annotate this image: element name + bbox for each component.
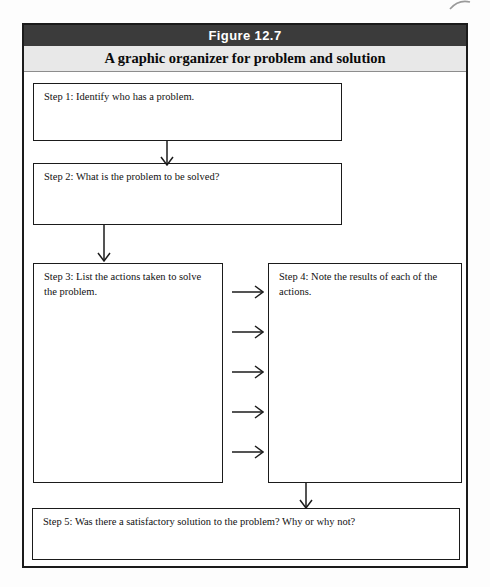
arrow-step4-to-step5-icon [299, 483, 313, 509]
step4-text: Step 4: Note the results of each of the … [279, 270, 439, 299]
step1-box: Step 1: Identify who has a problem. [33, 83, 342, 141]
arrow-step3-to-step4-icon [232, 325, 264, 339]
step4-box: Step 4: Note the results of each of the … [268, 263, 462, 483]
figure-number-bar: Figure 12.7 [24, 25, 466, 46]
step5-box: Step 5: Was there a satisfactory solutio… [32, 508, 460, 560]
figure-title-bar: A graphic organizer for problem and solu… [24, 46, 466, 72]
arrow-step3-to-step4-icon [232, 445, 264, 459]
scanned-page: Figure 12.7 A graphic organizer for prob… [0, 0, 490, 587]
step1-text: Step 1: Identify who has a problem. [44, 90, 333, 105]
figure-number-label: Figure 12.7 [208, 28, 281, 43]
step3-box: Step 3: List the actions taken to solve … [33, 263, 223, 483]
step2-text: Step 2: What is the problem to be solved… [44, 170, 333, 185]
step3-text: Step 3: List the actions taken to solve … [44, 270, 210, 299]
step2-box: Step 2: What is the problem to be solved… [33, 163, 342, 225]
page-scan-artifact [448, 0, 474, 10]
figure-title-label: A graphic organizer for problem and solu… [104, 50, 385, 66]
figure-frame: Figure 12.7 A graphic organizer for prob… [22, 23, 468, 568]
step5-text: Step 5: Was there a satisfactory solutio… [43, 515, 451, 530]
arrow-step2-to-step3-icon [97, 225, 111, 262]
arrow-step3-to-step4-icon [232, 285, 264, 299]
arrow-step3-to-step4-icon [232, 365, 264, 379]
arrow-step3-to-step4-icon [232, 405, 264, 419]
